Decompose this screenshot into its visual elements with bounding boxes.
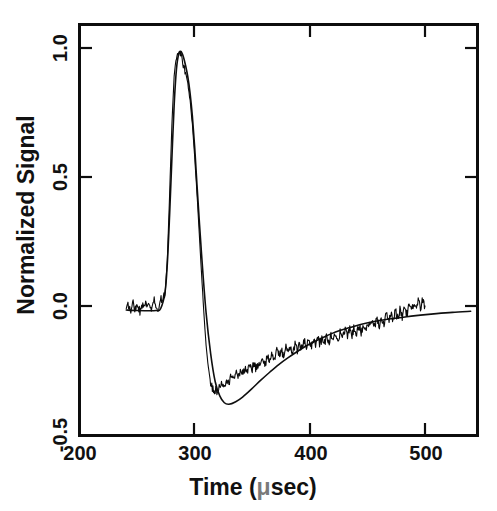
x-axis-title-head: Time ( bbox=[189, 474, 257, 500]
x-axis-title-tail: sec) bbox=[271, 474, 317, 500]
x-tick-label-3: 400 bbox=[294, 442, 327, 464]
y-axis-ticks-right bbox=[465, 48, 477, 306]
x-tick-label-4: 500 bbox=[409, 442, 442, 464]
model-fit-curve bbox=[126, 51, 470, 404]
y-tick-label-3: 0.0 bbox=[49, 292, 71, 320]
y-axis-ticks bbox=[80, 48, 92, 306]
chart-canvas: 1.0 0.5 0.0 -0.5 Normalized Signal 200 3… bbox=[0, 0, 497, 511]
figure-container: 1.0 0.5 0.0 -0.5 Normalized Signal 200 3… bbox=[0, 0, 497, 511]
y-tick-label-1: 1.0 bbox=[49, 34, 71, 62]
measured-signal-trace bbox=[126, 52, 425, 395]
y-tick-label-2: 0.5 bbox=[49, 163, 71, 191]
x-tick-label-1: 200 bbox=[63, 442, 96, 464]
x-axis-ticks bbox=[194, 423, 425, 435]
plot-frame bbox=[80, 25, 478, 436]
y-axis-title: Normalized Signal bbox=[13, 115, 39, 314]
mu-symbol-glyph: μ bbox=[257, 474, 271, 500]
x-axis-title: Time (μsec) bbox=[189, 474, 316, 500]
x-tick-label-2: 300 bbox=[178, 442, 211, 464]
x-axis-ticks-top bbox=[194, 25, 425, 37]
